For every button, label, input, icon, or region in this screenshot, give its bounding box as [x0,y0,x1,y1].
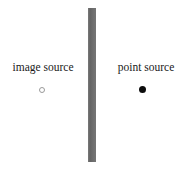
reflecting-wall [88,8,96,162]
image-source-marker-icon [39,87,45,93]
point-source-marker-icon [139,86,146,93]
image-source-label: image source [4,61,82,74]
figure-canvas: image source point source [0,0,186,172]
point-source-label: point source [110,61,182,74]
